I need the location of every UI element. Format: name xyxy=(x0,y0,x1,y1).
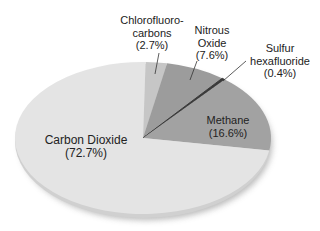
leader-lines xyxy=(0,0,320,231)
